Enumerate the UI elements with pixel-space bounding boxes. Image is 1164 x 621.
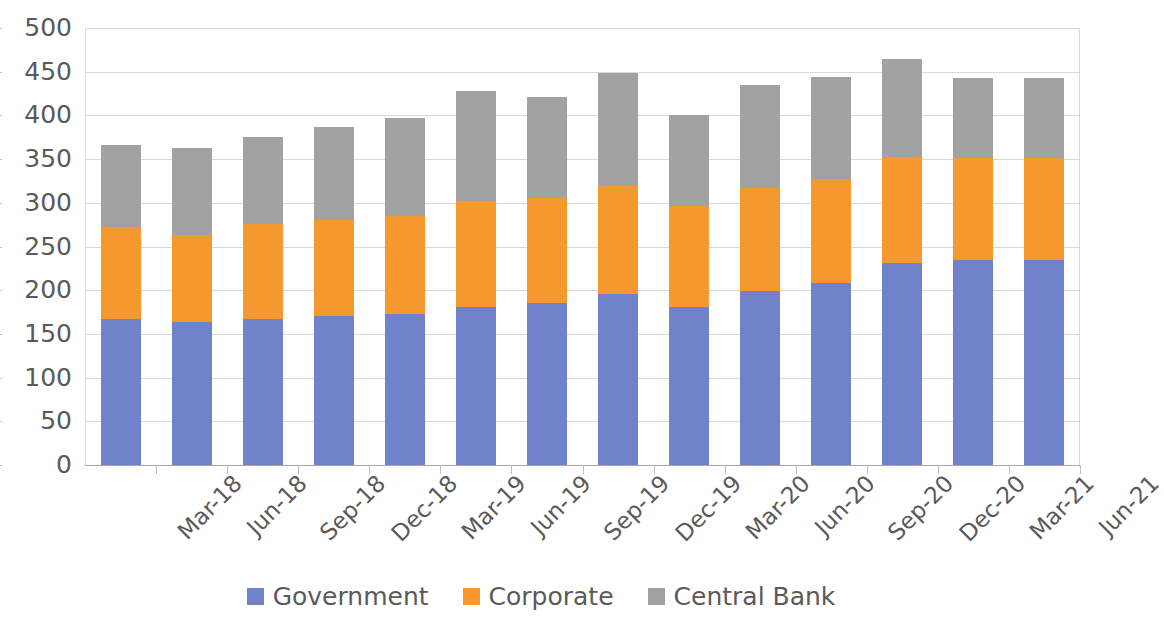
bar-segment-government[interactable] [598,294,638,465]
bar-segment-central-bank[interactable] [456,91,496,201]
bar-segment-government[interactable] [172,322,212,465]
y-axis-tick-mark [0,334,2,335]
legend-item[interactable]: Central Bank [648,583,836,610]
bar-segment-corporate[interactable] [527,198,567,303]
bar-segment-corporate[interactable] [456,201,496,307]
bar-stack[interactable] [811,77,851,465]
bar-segment-government[interactable] [314,316,354,465]
x-axis-tick-label: Mar-18 [172,470,247,545]
x-axis-tick-label: Dec-19 [670,470,746,546]
x-axis-tick-label: Sep-19 [599,470,675,546]
bar-segment-government[interactable] [101,319,141,465]
bar-stack[interactable] [172,148,212,465]
bar-segment-central-bank[interactable] [953,78,993,158]
bar-segment-government[interactable] [882,263,922,465]
legend-swatch-government [247,588,264,605]
bar-stack[interactable] [953,78,993,465]
bar-segment-government[interactable] [740,291,780,465]
x-axis-tick-label: Dec-18 [386,470,462,546]
bar-stack[interactable] [598,73,638,465]
bar-segment-central-bank[interactable] [740,85,780,188]
x-axis-tick-label: Jun-18 [241,470,311,540]
bar-segment-corporate[interactable] [669,206,709,307]
y-axis-tick-mark [0,247,2,248]
x-axis-tick-label: Mar-19 [456,470,531,545]
y-axis-tick-mark [0,159,2,160]
bar-segment-corporate[interactable] [740,188,780,291]
legend-label: Corporate [489,583,614,610]
bar-segment-central-bank[interactable] [598,73,638,186]
bar-stack[interactable] [385,118,425,465]
bar-stack[interactable] [243,137,283,465]
bar-segment-central-bank[interactable] [385,118,425,216]
bar-segment-central-bank[interactable] [314,127,354,221]
bar-segment-government[interactable] [456,307,496,465]
bar-stack[interactable] [740,85,780,465]
bar-stack[interactable] [314,127,354,465]
y-axis-tick-label: 200 [2,277,72,302]
legend-label: Government [273,583,429,610]
bar-segment-corporate[interactable] [101,227,141,319]
bar-segment-corporate[interactable] [385,216,425,314]
bar-segment-corporate[interactable] [598,186,638,294]
bar-segment-government[interactable] [953,260,993,465]
bar-segment-central-bank[interactable] [527,97,567,198]
bar-segment-corporate[interactable] [172,235,212,322]
bar-segment-government[interactable] [527,303,567,465]
y-axis-tick-label: 250 [2,234,72,259]
bars-layer [85,28,1080,465]
chart-legend: GovernmentCorporateCentral Bank [0,583,1082,610]
y-axis-tick-mark [0,28,2,29]
bar-segment-government[interactable] [811,283,851,465]
y-axis-tick-label: 450 [2,59,72,84]
bar-segment-central-bank[interactable] [101,145,141,227]
x-axis-tick-labels: Mar-18Jun-18Sep-18Dec-18Mar-19Jun-19Sep-… [85,470,1080,570]
bar-stack[interactable] [527,97,567,465]
x-axis-tick-label: Jun-21 [1094,470,1164,540]
x-axis-tick-label: Dec-20 [954,470,1030,546]
y-axis-tick-mark [0,378,2,379]
bar-stack[interactable] [456,91,496,465]
legend-label: Central Bank [674,583,836,610]
legend-swatch-corporate [463,588,480,605]
bar-stack[interactable] [1024,78,1064,465]
y-axis-tick-mark [0,290,2,291]
y-axis-tick-mark [0,203,2,204]
y-axis-tick-mark [0,72,2,73]
bar-segment-government[interactable] [243,319,283,465]
bar-segment-central-bank[interactable] [669,115,709,207]
x-axis-tick-label: Jun-19 [525,470,595,540]
y-axis-tick-label: 100 [2,365,72,390]
y-axis-tick-label: 350 [2,146,72,171]
bar-stack[interactable] [101,145,141,465]
y-axis-tick-label: 500 [2,15,72,40]
legend-item[interactable]: Government [247,583,429,610]
x-axis-tick-label: Sep-18 [314,470,390,546]
bar-segment-corporate[interactable] [243,224,283,319]
bar-segment-government[interactable] [669,307,709,465]
bar-segment-corporate[interactable] [882,157,922,263]
bar-stack[interactable] [669,115,709,465]
bar-segment-central-bank[interactable] [243,137,283,224]
bar-segment-central-bank[interactable] [882,59,922,158]
bar-segment-corporate[interactable] [953,158,993,260]
y-axis-tick-label: 50 [2,408,72,433]
bar-segment-central-bank[interactable] [172,148,212,235]
bar-segment-central-bank[interactable] [1024,78,1064,158]
x-axis-tick-label: Mar-21 [1025,470,1100,545]
bar-stack[interactable] [882,59,922,465]
bar-segment-government[interactable] [385,314,425,465]
y-axis-tick-mark [0,421,2,422]
bar-segment-corporate[interactable] [1024,158,1064,260]
x-axis-tick-label: Jun-20 [810,470,880,540]
bar-segment-corporate[interactable] [314,220,354,316]
bar-segment-government[interactable] [1024,260,1064,465]
plot-area: 500450400350300250200150100500 [85,28,1080,465]
legend-swatch-central-bank [648,588,665,605]
legend-item[interactable]: Corporate [463,583,614,610]
y-axis-tick-mark [0,465,2,466]
bar-segment-central-bank[interactable] [811,77,851,179]
y-axis-tick-label: 0 [2,452,72,477]
bar-segment-corporate[interactable] [811,179,851,283]
